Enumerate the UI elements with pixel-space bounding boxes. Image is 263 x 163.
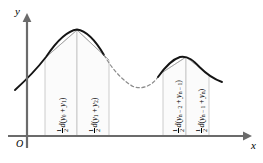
y-axis-arrowhead <box>23 13 32 22</box>
fraction-one-half: 1 2 <box>172 128 186 133</box>
origin-label: O <box>16 139 23 149</box>
trapezoid-n-label: 1 2 d(yn − 1 + yn) <box>195 89 209 133</box>
figure-canvas <box>0 0 263 163</box>
fraction-one-half: 1 2 <box>56 128 70 133</box>
trapezoid-1-label: 1 2 d(y0 + y1) <box>56 98 70 133</box>
curve-dashed-middle <box>104 55 158 88</box>
x-axis-label: x <box>251 140 256 151</box>
y-axis-label: y <box>15 6 20 17</box>
trapezoid-n-1-label: 1 2 d(yn − 2 + yn − 1) <box>172 80 186 133</box>
trapezoidal-rule-figure: y x O 1 2 d(y0 + y1) 1 2 d(y1 + y2) 1 2 … <box>0 0 263 163</box>
fraction-one-half: 1 2 <box>88 128 102 133</box>
x-axis <box>8 132 252 141</box>
fraction-one-half: 1 2 <box>195 128 209 133</box>
trapezoid-2-label: 1 2 d(y1 + y2) <box>88 98 102 133</box>
